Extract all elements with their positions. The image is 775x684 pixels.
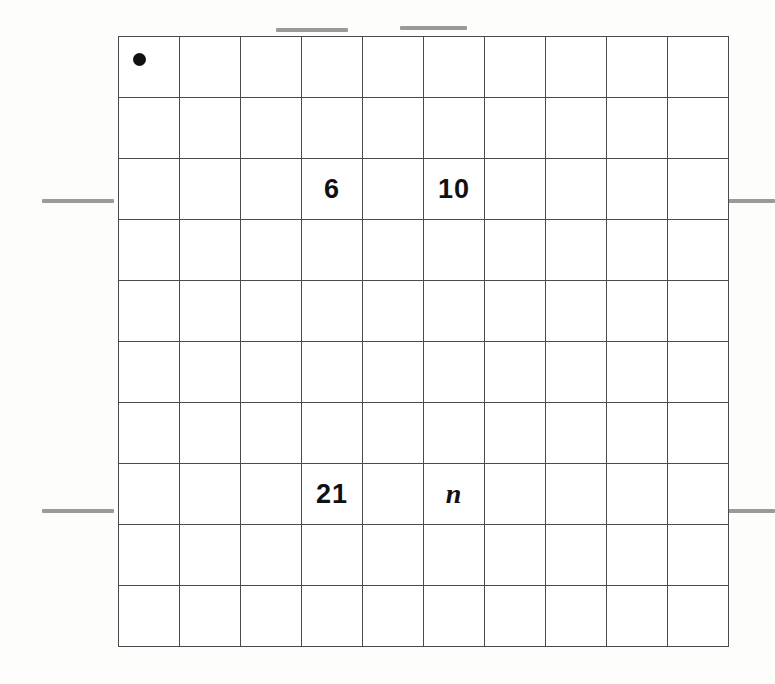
grid-cell-r4-c7[interactable] — [485, 220, 546, 281]
grid-cell-r10-c2[interactable] — [180, 586, 241, 647]
grid-cell-r9-c7[interactable] — [485, 525, 546, 586]
grid-cell-r4-c5[interactable] — [363, 220, 424, 281]
grid-cell-r6-c6[interactable] — [424, 342, 485, 403]
grid-cell-r5-c3[interactable] — [241, 281, 302, 342]
grid-cell-r5-c4[interactable] — [302, 281, 363, 342]
grid-cell-r8-c3[interactable] — [241, 464, 302, 525]
grid-cell-r3-c3[interactable] — [241, 159, 302, 220]
grid-cell-r9-c6[interactable] — [424, 525, 485, 586]
grid-cell-r2-c5[interactable] — [363, 98, 424, 159]
grid-cell-r5-c7[interactable] — [485, 281, 546, 342]
grid-cell-r2-c9[interactable] — [607, 98, 668, 159]
grid-cell-r1-c1[interactable] — [119, 37, 180, 98]
grid-cell-r10-c8[interactable] — [546, 586, 607, 647]
grid-cell-r4-c9[interactable] — [607, 220, 668, 281]
left-upper-answer-blank[interactable] — [42, 199, 114, 203]
grid-cell-r7-c10[interactable] — [668, 403, 729, 464]
grid-cell-r2-c2[interactable] — [180, 98, 241, 159]
grid-cell-r8-c2[interactable] — [180, 464, 241, 525]
grid-cell-r5-c10[interactable] — [668, 281, 729, 342]
grid-cell-r2-c3[interactable] — [241, 98, 302, 159]
grid-cell-r2-c8[interactable] — [546, 98, 607, 159]
grid-cell-r3-c10[interactable] — [668, 159, 729, 220]
grid-cell-r7-c5[interactable] — [363, 403, 424, 464]
grid-cell-r3-c4[interactable]: 6 — [302, 159, 363, 220]
top-left-answer-blank[interactable] — [276, 28, 348, 32]
grid-cell-r7-c6[interactable] — [424, 403, 485, 464]
grid-cell-r10-c9[interactable] — [607, 586, 668, 647]
grid-cell-r10-c10[interactable] — [668, 586, 729, 647]
grid-cell-r7-c8[interactable] — [546, 403, 607, 464]
grid-cell-r4-c8[interactable] — [546, 220, 607, 281]
grid-cell-r2-c6[interactable] — [424, 98, 485, 159]
grid-cell-r3-c8[interactable] — [546, 159, 607, 220]
grid-cell-r1-c8[interactable] — [546, 37, 607, 98]
grid-cell-r5-c1[interactable] — [119, 281, 180, 342]
grid-cell-r4-c2[interactable] — [180, 220, 241, 281]
grid-cell-r1-c4[interactable] — [302, 37, 363, 98]
grid-cell-r7-c7[interactable] — [485, 403, 546, 464]
grid-cell-r7-c2[interactable] — [180, 403, 241, 464]
grid-cell-r8-c1[interactable] — [119, 464, 180, 525]
grid-cell-r5-c9[interactable] — [607, 281, 668, 342]
grid-cell-r4-c10[interactable] — [668, 220, 729, 281]
grid-cell-r7-c9[interactable] — [607, 403, 668, 464]
grid-cell-r8-c7[interactable] — [485, 464, 546, 525]
grid-cell-r10-c7[interactable] — [485, 586, 546, 647]
grid-cell-r2-c10[interactable] — [668, 98, 729, 159]
grid-cell-r6-c3[interactable] — [241, 342, 302, 403]
grid-cell-r9-c5[interactable] — [363, 525, 424, 586]
grid-cell-r8-c6[interactable]: n — [424, 464, 485, 525]
grid-cell-r4-c3[interactable] — [241, 220, 302, 281]
grid-cell-r8-c9[interactable] — [607, 464, 668, 525]
grid-cell-r6-c2[interactable] — [180, 342, 241, 403]
grid-cell-r9-c8[interactable] — [546, 525, 607, 586]
grid-cell-r3-c1[interactable] — [119, 159, 180, 220]
grid-cell-r10-c5[interactable] — [363, 586, 424, 647]
grid-cell-r10-c4[interactable] — [302, 586, 363, 647]
grid-cell-r6-c4[interactable] — [302, 342, 363, 403]
right-upper-answer-blank[interactable] — [726, 199, 775, 203]
grid-cell-r4-c6[interactable] — [424, 220, 485, 281]
grid-cell-r3-c5[interactable] — [363, 159, 424, 220]
grid-cell-r8-c5[interactable] — [363, 464, 424, 525]
grid-cell-r10-c1[interactable] — [119, 586, 180, 647]
grid-cell-r3-c6[interactable]: 10 — [424, 159, 485, 220]
grid-cell-r6-c9[interactable] — [607, 342, 668, 403]
grid-cell-r1-c9[interactable] — [607, 37, 668, 98]
grid-cell-r5-c2[interactable] — [180, 281, 241, 342]
grid-cell-r10-c6[interactable] — [424, 586, 485, 647]
grid-cell-r9-c4[interactable] — [302, 525, 363, 586]
grid-cell-r9-c9[interactable] — [607, 525, 668, 586]
grid-cell-r5-c8[interactable] — [546, 281, 607, 342]
grid-cell-r10-c3[interactable] — [241, 586, 302, 647]
grid-cell-r6-c10[interactable] — [668, 342, 729, 403]
grid-cell-r4-c1[interactable] — [119, 220, 180, 281]
grid-cell-r8-c4[interactable]: 21 — [302, 464, 363, 525]
grid-cell-r9-c1[interactable] — [119, 525, 180, 586]
grid-cell-r7-c4[interactable] — [302, 403, 363, 464]
grid-cell-r8-c10[interactable] — [668, 464, 729, 525]
grid-cell-r1-c7[interactable] — [485, 37, 546, 98]
grid-cell-r5-c5[interactable] — [363, 281, 424, 342]
grid-cell-r3-c2[interactable] — [180, 159, 241, 220]
grid-cell-r2-c4[interactable] — [302, 98, 363, 159]
top-right-answer-blank[interactable] — [400, 26, 467, 30]
grid-cell-r2-c1[interactable] — [119, 98, 180, 159]
grid-cell-r1-c6[interactable] — [424, 37, 485, 98]
grid-cell-r6-c1[interactable] — [119, 342, 180, 403]
grid-cell-r6-c8[interactable] — [546, 342, 607, 403]
grid-cell-r1-c5[interactable] — [363, 37, 424, 98]
grid-cell-r1-c2[interactable] — [180, 37, 241, 98]
left-lower-answer-blank[interactable] — [42, 509, 114, 513]
grid-cell-r2-c7[interactable] — [485, 98, 546, 159]
grid-cell-r9-c2[interactable] — [180, 525, 241, 586]
grid-cell-r6-c5[interactable] — [363, 342, 424, 403]
grid-cell-r9-c10[interactable] — [668, 525, 729, 586]
grid-cell-r5-c6[interactable] — [424, 281, 485, 342]
grid-cell-r8-c8[interactable] — [546, 464, 607, 525]
grid-cell-r7-c3[interactable] — [241, 403, 302, 464]
grid-cell-r4-c4[interactable] — [302, 220, 363, 281]
grid-cell-r1-c10[interactable] — [668, 37, 729, 98]
grid-cell-r3-c9[interactable] — [607, 159, 668, 220]
